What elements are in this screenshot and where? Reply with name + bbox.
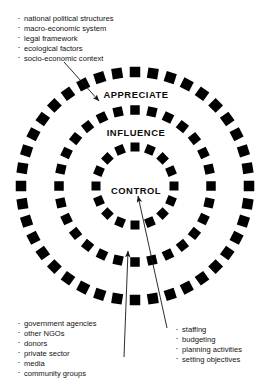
list-item: national political structures — [17, 14, 113, 24]
ring-label-appreciate: APPRECIATE — [103, 89, 168, 100]
list-item: staffing — [175, 325, 242, 335]
list-item: planning activities — [175, 345, 242, 355]
list-item: socio-economic context — [17, 54, 113, 64]
list-item: macro-economic system — [17, 24, 113, 34]
list-item: private sector — [17, 349, 97, 359]
list-item: community groups — [17, 369, 97, 379]
ring-label-influence: INFLUENCE — [107, 127, 166, 138]
ring-label-control: CONTROL — [111, 185, 161, 196]
arrow-context-to-appreciate — [64, 62, 99, 101]
list-item: ecological factors — [17, 44, 113, 54]
list-item: government agencies — [17, 319, 97, 329]
list-item: media — [17, 359, 97, 369]
list-item: legal framework — [17, 34, 113, 44]
arrow-actors-to-influence — [124, 251, 128, 357]
list-item: setting objectives — [175, 355, 242, 365]
list-item: donors — [17, 339, 97, 349]
list-item: budgeting — [175, 335, 242, 345]
diagram-canvas: national political structures macro-econ… — [0, 0, 272, 390]
external-actors-list: government agencies other NGOs donors pr… — [17, 319, 97, 378]
external-context-list: national political structures macro-econ… — [17, 14, 113, 64]
internal-activities-list: staffing budgeting planning activities s… — [175, 325, 242, 365]
arrow-internal-to-control — [138, 196, 167, 328]
list-item: other NGOs — [17, 329, 97, 339]
